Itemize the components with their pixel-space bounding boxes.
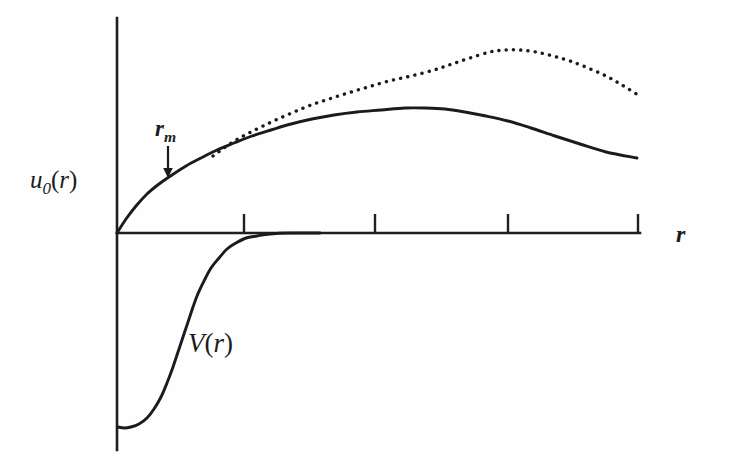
plot-canvas (0, 0, 731, 463)
y-axis-label-base: u (30, 166, 43, 193)
curve-u0-solid (117, 108, 637, 233)
potential-curve-label: V(r) (188, 328, 233, 359)
rm-label: rm (155, 116, 176, 146)
y-axis-label-arg-var: r (59, 166, 69, 193)
rm-label-base: r (155, 116, 164, 141)
y-axis-label-subscript: 0 (43, 179, 52, 198)
rm-arrow-group (163, 146, 173, 178)
potential-label-base: V (188, 328, 205, 358)
curve-asymptotic-dotted (213, 50, 638, 156)
x-axis-ticks (244, 214, 638, 233)
y-axis-label: u0(r) (30, 166, 77, 199)
potential-label-arg-var: r (214, 328, 225, 358)
y-axis-label-arg: (r) (51, 166, 77, 193)
x-axis-label: r (676, 221, 685, 248)
rm-label-subscript: m (164, 128, 176, 145)
figure-container: u0(r) r rm V(r) (0, 0, 731, 463)
potential-label-arg: (r) (205, 328, 234, 358)
